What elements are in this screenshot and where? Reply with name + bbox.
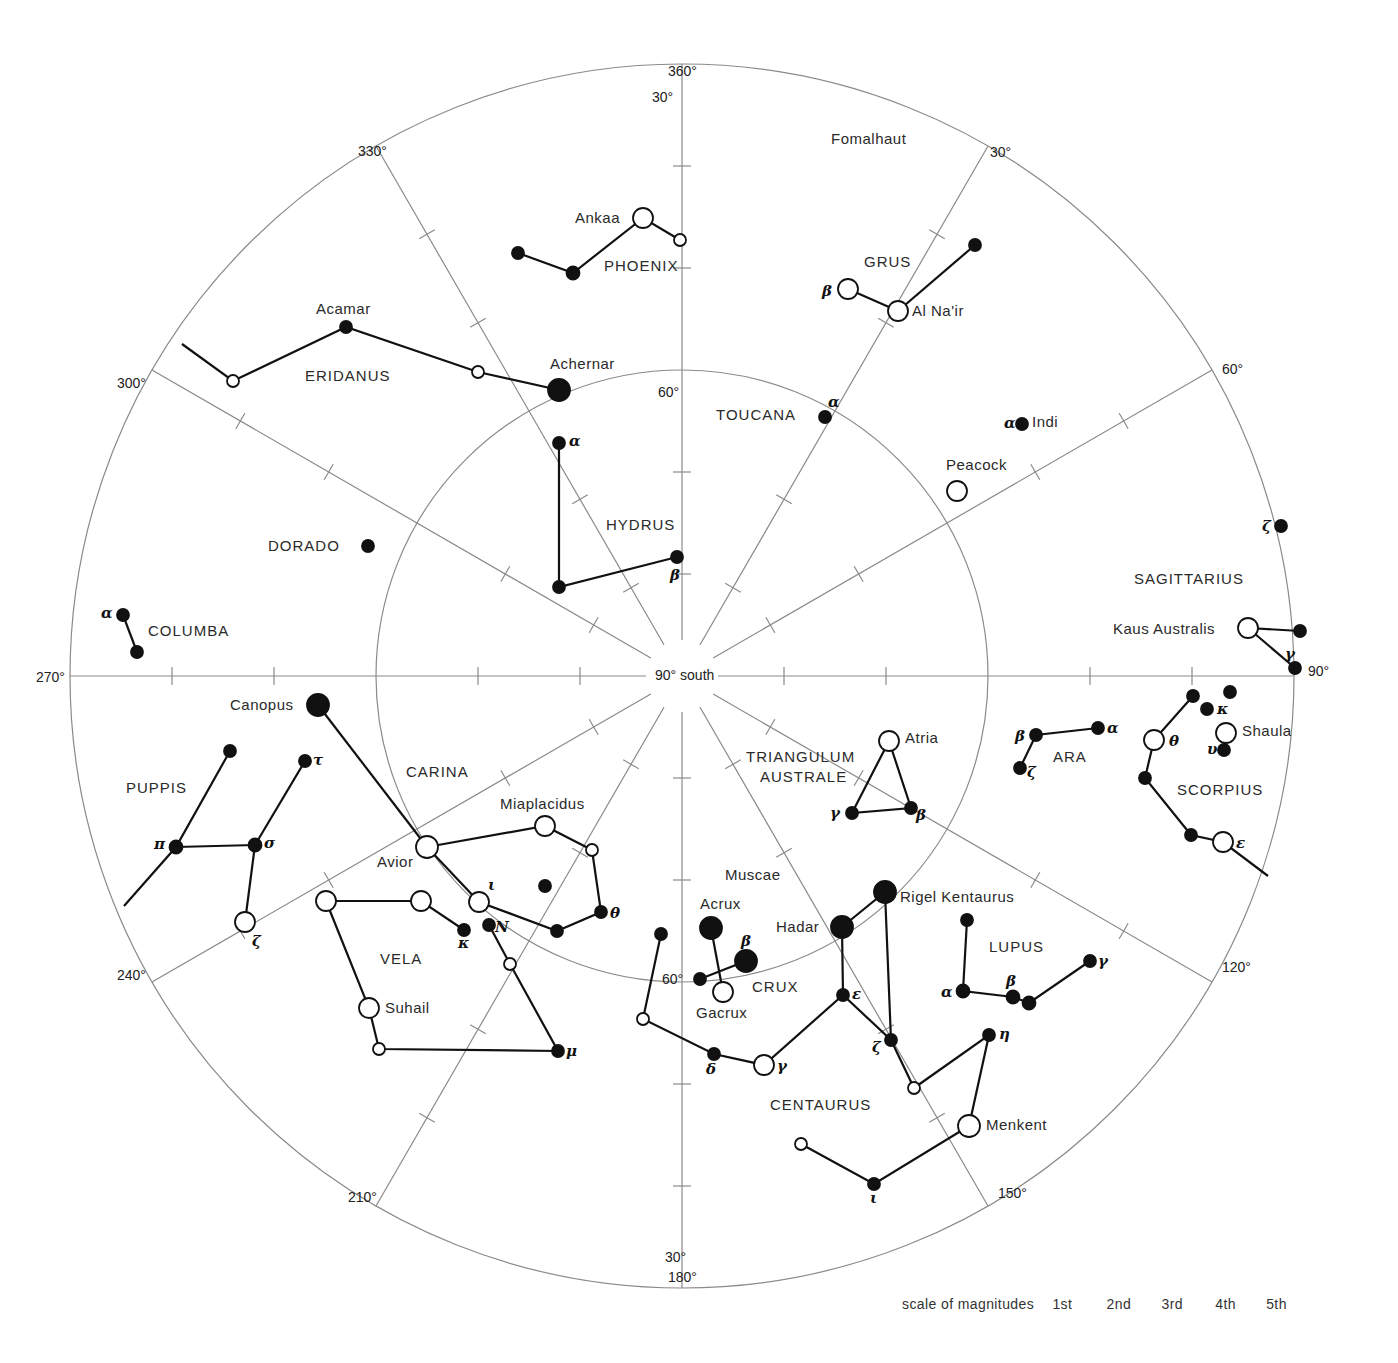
star-carina (539, 880, 551, 892)
star-toucana (819, 411, 831, 423)
star-carina (469, 892, 489, 912)
constellation-label-sagittarius: SAGITTARIUS (1134, 570, 1244, 587)
star-scorpius (1201, 703, 1213, 715)
star-crux (735, 950, 757, 972)
star-vela (373, 1043, 385, 1055)
star-gacrux (713, 982, 733, 1002)
star-name-label: Suhail (385, 999, 430, 1016)
dec-label: 60° (658, 384, 679, 400)
star-name-label: Atria (905, 729, 939, 746)
dec-tick (419, 230, 435, 239)
star-peacock (947, 481, 967, 501)
star-name-label: Rigel Kentaurus (900, 888, 1014, 905)
greek-letter-label: υ (1207, 740, 1218, 758)
star-triangulum-australe (846, 807, 858, 819)
stars (117, 208, 1306, 1190)
star-name-label: Menkent (986, 1116, 1047, 1133)
constellation-label-carina: CARINA (406, 763, 469, 780)
constellation-line-vela (326, 901, 464, 930)
star-eridanus (472, 366, 484, 378)
constellation-line-puppis (245, 845, 255, 922)
constellation-label-columba: COLUMBA (148, 622, 229, 639)
star-carina (551, 925, 563, 937)
greek-letter-label: θ (610, 904, 620, 922)
star-hydrus (553, 437, 565, 449)
dec-tick (501, 770, 510, 786)
dec-tick (236, 413, 245, 429)
star-name-label: Fomalhaut (831, 130, 907, 147)
ra-label: 120° (1222, 959, 1251, 975)
greek-letter-label: γ (1285, 645, 1296, 663)
greek-letter-label: β (669, 566, 680, 584)
center-label: 90° south (655, 667, 714, 683)
star-puppis (235, 912, 255, 932)
star-centaurus (637, 1013, 649, 1025)
star-name-label: Kaus Australis (1113, 620, 1215, 637)
star-centaurus (754, 1055, 774, 1075)
ra-label: 210° (348, 1189, 377, 1205)
star-name-label: Hadar (776, 918, 819, 935)
greek-letter-label: β (821, 282, 832, 300)
star-menkent (958, 1115, 980, 1137)
dec-tick (929, 1113, 945, 1122)
constellation-label-lupus: LUPUS (989, 938, 1044, 955)
star-name-label: Gacrux (696, 1004, 747, 1021)
legend-item-5th: 5th (1266, 1296, 1287, 1312)
ra-label: 180° (668, 1269, 697, 1285)
constellation-label-dorado: DORADO (268, 537, 340, 554)
star-hydrus (671, 551, 683, 563)
star-atria (879, 731, 899, 751)
star-carina (586, 844, 598, 856)
greek-letter-label: κ (457, 934, 469, 952)
star-centaurus (708, 1048, 720, 1060)
dec-tick (419, 1113, 435, 1122)
star-scorpius (1224, 686, 1236, 698)
dec-tick (776, 495, 792, 504)
star-indi (1016, 418, 1028, 430)
dec-tick (725, 760, 741, 769)
star-centaurus (908, 1082, 920, 1094)
star-shaula (1216, 723, 1236, 743)
star-name-label: Peacock (946, 456, 1007, 473)
constellation-label-vela: VELA (380, 950, 422, 967)
greek-letter-label: τ (313, 751, 324, 769)
greek-letter-label: α (1107, 719, 1119, 737)
ra-label: 90° (1308, 663, 1329, 679)
greek-letter-label: η (999, 1025, 1010, 1043)
greek-letter-label: σ (264, 834, 276, 852)
star-lupus (1023, 997, 1036, 1010)
dec-tick (854, 770, 863, 786)
constellation-line-lupus (963, 920, 1090, 1003)
ra-line-300 (152, 370, 651, 658)
star-miaplacidus (535, 816, 555, 836)
ra-label: 330° (358, 143, 387, 159)
star-eridanus (227, 375, 239, 387)
dec-tick (766, 719, 775, 735)
greek-letter-label: θ (1169, 732, 1179, 750)
ra-label: 30° (990, 144, 1011, 160)
dec-tick (854, 566, 863, 582)
legend-item-4th: 4th (1215, 1296, 1236, 1312)
ra-label: 270° (36, 669, 65, 685)
constellation-label-phoenix: PHOENIX (604, 257, 679, 274)
star-suhail (359, 998, 379, 1018)
constellation-label-crux: CRUX (752, 978, 799, 995)
greek-letter-label: N (494, 918, 510, 936)
ra-label: 150° (998, 1185, 1027, 1201)
star-name-label: Miaplacidus (500, 795, 585, 812)
legend-item-1st: 1st (1052, 1296, 1072, 1312)
star-rigel-kentaurus (874, 881, 896, 903)
constellation-label-triangulum-australe: AUSTRALE (760, 768, 847, 785)
star-ara (1092, 722, 1104, 734)
star-ankaa (633, 208, 653, 228)
star-centaurus (983, 1029, 995, 1041)
star-name-label: Indi (1032, 413, 1058, 430)
star-centaurus (837, 989, 849, 1001)
star-name-label: Al Na'ir (912, 302, 964, 319)
star-centaurus (795, 1138, 807, 1150)
dec-tick (501, 566, 510, 582)
greek-letter-label: γ (830, 804, 841, 822)
magnitude-legend: scale of magnitudes 1st 2nd 3rd 4th 5th (902, 1296, 1287, 1312)
star-lupus (961, 914, 973, 926)
star-grus (838, 279, 858, 299)
